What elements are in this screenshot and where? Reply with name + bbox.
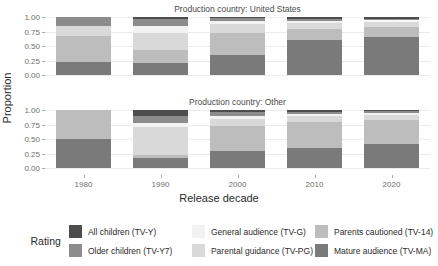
legend-item[interactable]: All children (TV-Y)	[69, 225, 192, 238]
legend-item[interactable]: Mature audience (TV-MA)	[315, 244, 438, 257]
bar-segment-tv-14[interactable]	[133, 155, 188, 158]
y-axis-tick-label: 0.50	[0, 42, 40, 51]
stacked-bar[interactable]	[133, 17, 188, 75]
bar-segment-tv-y7[interactable]	[364, 111, 419, 113]
bar-segment-tv-ma[interactable]	[133, 63, 188, 75]
legend-swatch	[192, 244, 205, 257]
bar-segment-tv-pg[interactable]	[364, 22, 419, 27]
bar-segment-tv-y7[interactable]	[287, 19, 342, 21]
bar-segment-tv-ma[interactable]	[210, 55, 265, 75]
stacked-bar[interactable]	[364, 17, 419, 75]
bar-segment-tv-14[interactable]	[287, 29, 342, 40]
bar-segment-tv-y7[interactable]	[133, 19, 188, 26]
bar-segment-tv-y[interactable]	[210, 17, 265, 18]
bar-segment-tv-y7[interactable]	[56, 17, 111, 26]
y-axis-tick-label: 0.25	[0, 56, 40, 65]
bar-segment-tv-y7[interactable]	[364, 19, 419, 21]
legend-column: General audience (TV-G)Parental guidance…	[192, 225, 315, 257]
y-axis-tick-mark	[42, 75, 45, 76]
x-axis-tick-mark	[161, 175, 162, 178]
bar-segment-tv-g[interactable]	[364, 113, 419, 115]
bar-segment-tv-ma[interactable]	[210, 151, 265, 168]
bar-segment-tv-14[interactable]	[56, 110, 111, 139]
stacked-bar[interactable]	[133, 110, 188, 168]
x-axis-tick-label: 2010	[285, 180, 345, 189]
x-axis-tick-label: 1980	[54, 180, 114, 189]
bar-segment-tv-14[interactable]	[56, 36, 111, 62]
bar-segment-tv-g[interactable]	[364, 21, 419, 23]
legend-label: Older children (TV-Y7)	[88, 246, 173, 256]
y-axis-tick-label: 0.75	[0, 27, 40, 36]
gridline-horizontal	[45, 168, 430, 169]
bar-segment-tv-y[interactable]	[210, 110, 265, 112]
legend-item[interactable]: Parental guidance (TV-PG)	[192, 244, 315, 257]
bar-segment-tv-y7[interactable]	[210, 18, 265, 21]
gridline-horizontal	[45, 75, 430, 76]
bar-segment-tv-14[interactable]	[364, 27, 419, 37]
plot-panel	[45, 110, 430, 168]
legend-item[interactable]: Parents cautioned (TV-14)	[315, 225, 438, 238]
stacked-bar[interactable]	[56, 17, 111, 75]
bar-segment-tv-14[interactable]	[364, 120, 419, 143]
bar-segment-tv-pg[interactable]	[56, 26, 111, 36]
y-axis-tick-mark	[42, 32, 45, 33]
bar-segment-tv-ma[interactable]	[133, 158, 188, 168]
bar-segment-tv-pg[interactable]	[287, 23, 342, 29]
bar-segment-tv-14[interactable]	[287, 122, 342, 148]
stacked-bar[interactable]	[364, 110, 419, 168]
bar-segment-tv-y7[interactable]	[133, 116, 188, 123]
bar-segment-tv-y[interactable]	[364, 110, 419, 111]
bar-segment-tv-14[interactable]	[133, 50, 188, 63]
bar-segment-tv-g[interactable]	[287, 21, 342, 23]
bar-segment-tv-ma[interactable]	[56, 139, 111, 168]
x-axis-tick-mark	[392, 175, 393, 178]
bar-segment-tv-g[interactable]	[287, 114, 342, 116]
bar-segment-tv-y7[interactable]	[210, 112, 265, 115]
bar-segment-tv-ma[interactable]	[56, 62, 111, 75]
stacked-bar[interactable]	[56, 110, 111, 168]
bar-segment-tv-y[interactable]	[133, 110, 188, 116]
y-axis-tick-label: 0.00	[0, 164, 40, 173]
bar-segment-tv-pg[interactable]	[210, 119, 265, 126]
bar-segment-tv-y[interactable]	[133, 17, 188, 19]
chart-root: Proportion Release decade Production cou…	[0, 0, 438, 266]
bar-segment-tv-14[interactable]	[210, 126, 265, 151]
legend-item[interactable]: Older children (TV-Y7)	[69, 244, 192, 257]
bar-segment-tv-pg[interactable]	[133, 33, 188, 50]
legend-swatch	[315, 244, 328, 257]
legend-label: Mature audience (TV-MA)	[334, 246, 431, 256]
bar-segment-tv-y7[interactable]	[287, 112, 342, 114]
bar-segment-tv-g[interactable]	[210, 21, 265, 24]
bar-segment-tv-y[interactable]	[287, 17, 342, 19]
legend: Rating All children (TV-Y)Older children…	[0, 218, 438, 264]
bar-segment-tv-pg[interactable]	[133, 127, 188, 155]
bar-segment-tv-ma[interactable]	[364, 37, 419, 75]
bar-segment-tv-y[interactable]	[364, 17, 419, 19]
y-axis-tick-mark	[42, 17, 45, 18]
bar-segment-tv-pg[interactable]	[364, 115, 419, 121]
facet-strip-label: Production country: Other	[45, 95, 430, 108]
stacked-bar[interactable]	[210, 17, 265, 75]
bar-segment-tv-y[interactable]	[287, 110, 342, 112]
bar-segment-tv-14[interactable]	[210, 33, 265, 55]
stacked-bar[interactable]	[287, 17, 342, 75]
stacked-bar[interactable]	[287, 110, 342, 168]
bar-segment-tv-g[interactable]	[133, 123, 188, 128]
bar-segment-tv-ma[interactable]	[287, 148, 342, 168]
legend-item[interactable]: General audience (TV-G)	[192, 225, 315, 238]
y-axis-tick-mark	[42, 110, 45, 111]
bar-segment-tv-ma[interactable]	[364, 144, 419, 168]
legend-column: Parents cautioned (TV-14)Mature audience…	[315, 225, 438, 257]
x-axis-title: Release decade	[0, 192, 438, 204]
bar-segment-tv-pg[interactable]	[287, 116, 342, 122]
bar-segment-tv-ma[interactable]	[287, 40, 342, 75]
legend-swatch	[69, 244, 82, 257]
y-axis-tick-mark	[42, 125, 45, 126]
bar-segment-tv-g[interactable]	[133, 26, 188, 33]
legend-column: All children (TV-Y)Older children (TV-Y7…	[69, 225, 192, 257]
bar-segment-tv-g[interactable]	[210, 116, 265, 119]
stacked-bar[interactable]	[210, 110, 265, 168]
y-axis-tick-label: 0.25	[0, 149, 40, 158]
bar-segment-tv-pg[interactable]	[210, 24, 265, 33]
y-axis-tick-mark	[42, 139, 45, 140]
